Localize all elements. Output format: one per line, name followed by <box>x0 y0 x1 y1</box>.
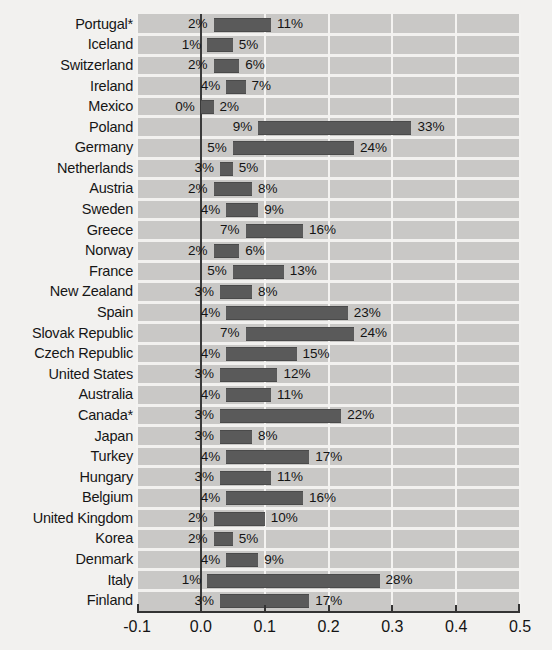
bar-low-value: 2% <box>172 182 208 196</box>
bar-low-value: 5% <box>191 141 227 155</box>
category-label: United States <box>0 365 133 384</box>
category-label: Ireland <box>0 77 133 96</box>
range-bar <box>214 18 271 32</box>
bar-low-value: 2% <box>172 17 208 31</box>
bar-low-value: 3% <box>178 594 214 608</box>
bar-high-value: 13% <box>290 264 317 278</box>
range-bar <box>226 553 258 567</box>
category-label: Denmark <box>0 550 133 569</box>
category-label: France <box>0 262 133 281</box>
category-label: Korea <box>0 529 133 548</box>
category-label: Italy <box>0 571 133 590</box>
range-bar <box>207 574 379 588</box>
range-bar <box>207 38 233 52</box>
gridline-0.4 <box>455 14 457 611</box>
bar-low-value: 2% <box>172 244 208 258</box>
bar-low-value: 4% <box>184 491 220 505</box>
category-label: Austria <box>0 179 133 198</box>
bar-high-value: 11% <box>277 17 303 31</box>
bar-high-value: 28% <box>386 573 413 587</box>
range-bar <box>233 141 354 155</box>
bar-low-value: 0% <box>159 100 195 114</box>
bar-high-value: 16% <box>309 223 336 237</box>
x-tick-label: 0.1 <box>235 618 295 636</box>
category-label: Germany <box>0 138 133 157</box>
bar-low-value: 1% <box>165 573 201 587</box>
range-bar <box>220 162 233 176</box>
range-bar <box>201 100 214 114</box>
x-tick-label: 0.5 <box>490 618 550 636</box>
bar-low-value: 4% <box>184 306 220 320</box>
x-tick <box>391 605 393 612</box>
range-bar <box>214 512 265 526</box>
x-tick-label: 0.4 <box>426 618 486 636</box>
category-label: New Zealand <box>0 282 133 301</box>
category-label: Mexico <box>0 97 133 116</box>
bar-low-value: 3% <box>178 470 214 484</box>
category-label: Hungary <box>0 468 133 487</box>
bar-low-value: 7% <box>204 326 240 340</box>
bar-high-value: 17% <box>315 450 342 464</box>
x-tick <box>264 605 266 612</box>
category-label: Iceland <box>0 35 133 54</box>
category-label: Poland <box>0 118 133 137</box>
gridline--0.1 <box>136 14 138 611</box>
range-bar <box>258 121 411 135</box>
range-bar <box>226 450 309 464</box>
x-tick-label: 0.2 <box>299 618 359 636</box>
axis-end-cap <box>137 604 139 611</box>
range-bar <box>220 471 271 485</box>
bar-low-value: 4% <box>184 450 220 464</box>
range-bar <box>214 532 233 546</box>
range-bar <box>220 285 252 299</box>
bar-high-value: 8% <box>258 182 278 196</box>
bar-high-value: 8% <box>258 429 278 443</box>
range-bar <box>220 430 252 444</box>
bar-low-value: 3% <box>178 367 214 381</box>
bar-high-value: 12% <box>283 367 310 381</box>
range-bar <box>226 203 258 217</box>
bar-high-value: 5% <box>239 532 259 546</box>
category-label: Portugal* <box>0 15 133 34</box>
bar-high-value: 9% <box>264 203 284 217</box>
bar-low-value: 9% <box>216 120 252 134</box>
gridline-0.3 <box>391 14 393 611</box>
bar-low-value: 3% <box>178 429 214 443</box>
bar-high-value: 6% <box>245 244 265 258</box>
bar-low-value: 4% <box>184 347 220 361</box>
category-label: Australia <box>0 385 133 404</box>
range-bar <box>226 80 245 94</box>
bar-high-value: 15% <box>303 347 330 361</box>
bar-high-value: 22% <box>347 408 374 422</box>
range-bar <box>226 388 271 402</box>
range-bar <box>214 182 252 196</box>
bar-high-value: 6% <box>245 58 265 72</box>
bar-high-value: 2% <box>220 100 240 114</box>
category-label: Norway <box>0 241 133 260</box>
bar-high-value: 9% <box>264 553 284 567</box>
category-label: Belgium <box>0 488 133 507</box>
bar-high-value: 24% <box>360 141 387 155</box>
x-tick <box>455 605 457 612</box>
bar-high-value: 8% <box>258 285 278 299</box>
range-bar <box>246 224 303 238</box>
bar-low-value: 1% <box>165 38 201 52</box>
range-bar <box>220 409 341 423</box>
bar-high-value: 16% <box>309 491 336 505</box>
bar-low-value: 7% <box>204 223 240 237</box>
category-label: Switzerland <box>0 56 133 75</box>
category-label: United Kingdom <box>0 509 133 528</box>
axis-end-cap <box>518 604 520 611</box>
range-bar <box>233 265 284 279</box>
range-bar <box>226 491 303 505</box>
bar-low-value: 2% <box>172 58 208 72</box>
category-label: Canada* <box>0 406 133 425</box>
x-tick-label: 0.0 <box>171 618 231 636</box>
category-label: Greece <box>0 221 133 240</box>
bar-high-value: 5% <box>239 38 259 52</box>
category-label: Turkey <box>0 447 133 466</box>
bar-high-value: 11% <box>277 388 303 402</box>
bar-high-value: 5% <box>239 161 259 175</box>
x-tick-label: -0.1 <box>107 618 167 636</box>
category-label: Japan <box>0 427 133 446</box>
